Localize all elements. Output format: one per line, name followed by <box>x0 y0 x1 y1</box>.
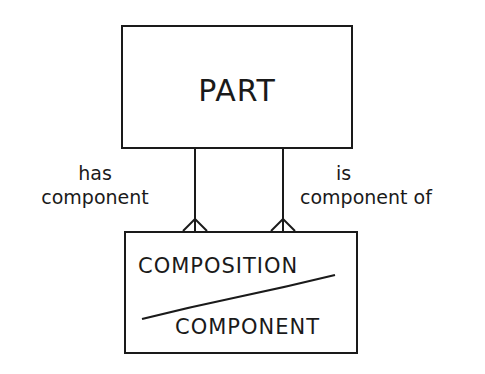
crows-foot-icon <box>183 219 207 231</box>
relationship-label-line: is <box>300 161 470 185</box>
entity-composition[interactable]: COMPOSITION COMPONENT <box>124 231 358 354</box>
relationship-has-component-line <box>183 149 207 231</box>
entity-component-label: COMPONENT <box>175 315 320 339</box>
er-diagram: PART COMPOSITION COMPONENT has component <box>0 0 485 374</box>
entity-composition-label: COMPOSITION <box>138 254 298 278</box>
entity-part[interactable]: PART <box>121 25 353 149</box>
entity-part-label: PART <box>123 73 351 108</box>
relationship-label-is-component-of: is component of <box>300 161 470 209</box>
relationship-label-line: component <box>30 185 160 209</box>
relationship-label-line: has <box>30 161 160 185</box>
relationship-is-component-of-line <box>271 149 295 231</box>
crows-foot-icon <box>271 219 295 231</box>
relationship-label-has-component: has component <box>30 161 160 209</box>
relationship-label-line: component of <box>300 185 470 209</box>
